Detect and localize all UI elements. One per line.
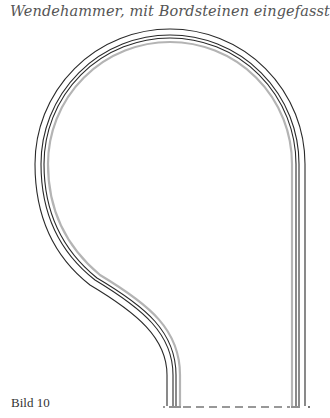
boundary-end-dot xyxy=(308,406,310,408)
gutter-line xyxy=(48,42,292,406)
curb-inner-line xyxy=(44,38,296,406)
curb-outer-line xyxy=(41,35,299,406)
figure-caption: Bild 10 xyxy=(11,395,50,411)
